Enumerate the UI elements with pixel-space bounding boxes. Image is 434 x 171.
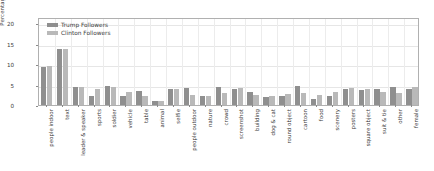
bar-clinton — [269, 96, 274, 105]
bar-clinton — [126, 92, 131, 105]
x-tick-mark — [221, 105, 222, 107]
bar-group — [182, 19, 198, 105]
plot-area: Trump Followers Clinton Followers — [38, 18, 419, 106]
x-tick-label: sports — [96, 109, 102, 171]
bar-clinton — [396, 93, 401, 105]
bar-trump — [327, 96, 332, 105]
y-tick-label: 15 — [0, 42, 14, 48]
x-tick-label: building — [254, 109, 260, 171]
bar-clinton — [174, 89, 179, 105]
bar-trump — [57, 49, 62, 105]
x-tick-mark — [268, 105, 269, 107]
legend-label-trump: Trump Followers — [61, 22, 108, 28]
legend-item-clinton: Clinton Followers — [47, 30, 110, 36]
bar-clinton — [365, 89, 370, 105]
x-tick-mark — [62, 105, 63, 107]
bar-trump — [200, 96, 205, 105]
x-tick-label: text — [64, 109, 70, 171]
bar-group — [261, 19, 277, 105]
x-tick-label: cartoon — [302, 109, 308, 171]
bar-clinton — [253, 95, 258, 105]
bar-clinton — [333, 92, 338, 106]
bar-clinton — [317, 95, 322, 105]
bar-group — [388, 19, 404, 105]
x-tick-label: animal — [159, 109, 165, 171]
x-tick-mark — [173, 105, 174, 107]
bar-trump — [168, 89, 173, 105]
x-tick-mark — [348, 105, 349, 107]
x-tick-label: suit & tie — [381, 109, 387, 171]
bar-clinton — [206, 96, 211, 105]
bar-trump — [374, 89, 379, 105]
x-tick-mark — [332, 105, 333, 107]
bar-clinton — [63, 49, 68, 105]
x-tick-mark — [395, 105, 396, 107]
x-tick-mark — [46, 105, 47, 107]
x-tick-mark — [189, 105, 190, 107]
x-tick-mark — [363, 105, 364, 107]
x-tick-mark — [205, 105, 206, 107]
bar-trump — [295, 86, 300, 105]
legend-swatch-icon-trump — [47, 23, 58, 27]
y-tick-mark — [36, 24, 38, 25]
bar-clinton — [190, 95, 195, 105]
figure: Percentage Trump Followers Clinton Follo… — [0, 0, 434, 171]
y-tick-label: 0 — [0, 103, 14, 109]
bar-clinton — [349, 88, 354, 105]
x-tick-label: people indoor — [48, 109, 54, 171]
x-tick-label: round object — [286, 109, 292, 171]
bar-group — [230, 19, 246, 105]
bar-trump — [247, 92, 252, 105]
bar-group — [166, 19, 182, 105]
x-tick-mark — [141, 105, 142, 107]
bar-trump — [105, 86, 110, 105]
x-tick-label: vehicle — [127, 109, 133, 171]
bar-clinton — [47, 66, 52, 105]
x-tick-label: leader & speaker — [80, 109, 86, 171]
x-tick-mark — [94, 105, 95, 107]
x-tick-label: other — [397, 109, 403, 171]
y-tick-label: 5 — [0, 83, 14, 89]
bar-group — [214, 19, 230, 105]
legend-label-clinton: Clinton Followers — [61, 30, 110, 36]
bar-group — [357, 19, 373, 105]
x-tick-mark — [125, 105, 126, 107]
bar-clinton — [412, 87, 417, 105]
x-tick-mark — [300, 105, 301, 107]
bar-clinton — [158, 101, 163, 106]
x-tick-label: crowd — [223, 109, 229, 171]
x-tick-mark — [78, 105, 79, 107]
bar-clinton — [95, 89, 100, 105]
bar-clinton — [79, 87, 84, 105]
x-tick-label: people outdoor — [191, 109, 197, 171]
bar-trump — [73, 87, 78, 105]
x-tick-label: posters — [350, 109, 356, 171]
x-tick-mark — [236, 105, 237, 107]
x-tick-label: nature — [207, 109, 213, 171]
bar-clinton — [238, 88, 243, 105]
bar-group — [277, 19, 293, 105]
bar-trump — [343, 89, 348, 105]
x-tick-label: selfie — [175, 109, 181, 171]
bar-clinton — [380, 92, 385, 105]
bar-trump — [263, 97, 268, 105]
y-tick-mark — [36, 86, 38, 87]
x-axis-ticks: people indoortextleader & speakersportss… — [38, 107, 419, 171]
bar-group — [198, 19, 214, 105]
bar-trump — [136, 91, 141, 105]
x-tick-mark — [316, 105, 317, 107]
y-tick-label: 20 — [0, 21, 14, 27]
y-tick-mark — [36, 65, 38, 66]
bar-trump — [216, 87, 221, 105]
bar-trump — [406, 89, 411, 105]
legend-item-trump: Trump Followers — [47, 22, 110, 28]
legend: Trump Followers Clinton Followers — [47, 22, 110, 36]
x-tick-label: scenery — [334, 109, 340, 171]
bar-clinton — [301, 93, 306, 105]
x-tick-label: table — [143, 109, 149, 171]
bar-trump — [359, 90, 364, 105]
bar-trump — [279, 96, 284, 105]
x-tick-mark — [109, 105, 110, 107]
y-tick-mark — [36, 45, 38, 46]
x-tick-label: screenshot — [238, 109, 244, 171]
